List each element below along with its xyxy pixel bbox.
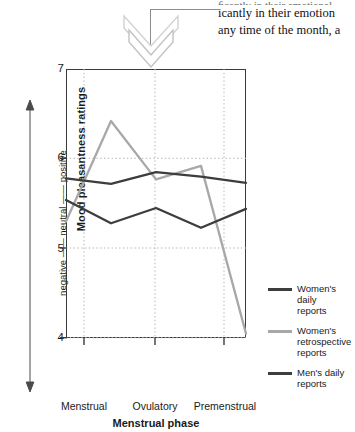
legend-swatch-womens-daily: [268, 288, 292, 291]
chart-legend: Women's daily reports Women's retrospect…: [268, 283, 355, 398]
x-axis-ticks: [84, 338, 224, 345]
chart-page: ﬁcantly in their emotional icantly in th…: [0, 0, 355, 432]
legend-label-womens-daily: Women's daily reports: [297, 283, 336, 316]
legend-item-womens-daily[interactable]: Women's daily reports: [268, 283, 355, 316]
legend-label-womens-retrospective: Women's retrospective reports: [297, 325, 351, 358]
excerpt-line-1: icantly in their emotion: [218, 5, 355, 22]
body-text-excerpt: ﬁcantly in their emotional icantly in th…: [218, 0, 355, 46]
plot-area: [66, 69, 246, 338]
callout-leader-horizontal: [150, 9, 220, 10]
legend-item-mens-daily[interactable]: Men's daily reports: [268, 367, 355, 389]
legend-label-mens-daily: Men's daily reports: [297, 367, 344, 389]
legend-item-womens-retrospective[interactable]: Women's retrospective reports: [268, 325, 355, 358]
y-scale-arrow: [26, 100, 34, 392]
y-tick-7: 7: [42, 62, 64, 74]
x-tick-premenstrual: Premenstrual: [189, 400, 261, 412]
legend-swatch-mens-daily: [268, 372, 292, 375]
x-tick-menstrual: Menstrual: [54, 400, 114, 412]
legend-swatch-womens-retrospective: [268, 330, 292, 333]
x-axis-title: Menstrual phase: [56, 417, 256, 429]
x-tick-ovulatory: Ovulatory: [125, 400, 185, 412]
excerpt-line-2: any time of the month, a: [218, 22, 355, 39]
double-chevron-down-icon: [120, 12, 182, 72]
